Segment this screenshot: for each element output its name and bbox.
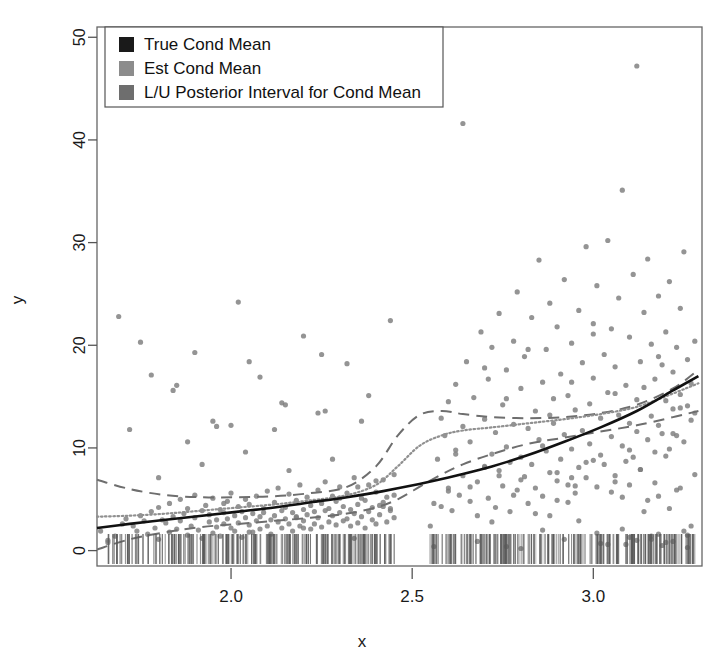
data-point bbox=[627, 482, 632, 487]
data-point bbox=[261, 510, 266, 515]
data-point bbox=[540, 494, 545, 499]
data-point bbox=[685, 403, 690, 408]
data-point bbox=[138, 340, 143, 345]
data-point bbox=[319, 524, 324, 529]
y-axis-label: y bbox=[8, 296, 28, 305]
data-point bbox=[656, 354, 661, 359]
data-point bbox=[558, 371, 563, 376]
data-point bbox=[555, 478, 560, 483]
data-point bbox=[584, 244, 589, 249]
data-point bbox=[620, 526, 625, 531]
data-point bbox=[526, 501, 531, 506]
data-point bbox=[573, 407, 578, 412]
data-point bbox=[355, 484, 360, 489]
data-point bbox=[576, 308, 581, 313]
data-point bbox=[439, 504, 444, 509]
data-point bbox=[569, 475, 574, 480]
data-point bbox=[584, 460, 589, 465]
data-point bbox=[565, 500, 570, 505]
data-point bbox=[497, 473, 502, 478]
data-point bbox=[605, 390, 610, 395]
data-point bbox=[678, 485, 683, 490]
data-point bbox=[475, 479, 480, 484]
data-point bbox=[645, 437, 650, 442]
data-point bbox=[667, 279, 672, 284]
data-point bbox=[591, 331, 596, 336]
data-point bbox=[123, 516, 128, 521]
data-point bbox=[558, 457, 563, 462]
data-point bbox=[352, 475, 357, 480]
data-point bbox=[149, 372, 154, 377]
x-tick-label: 2.0 bbox=[219, 587, 243, 606]
data-point bbox=[681, 439, 686, 444]
data-point bbox=[214, 524, 219, 529]
data-point bbox=[326, 506, 331, 511]
data-point bbox=[620, 443, 625, 448]
data-point bbox=[489, 345, 494, 350]
rug-plot-group bbox=[109, 534, 695, 564]
data-point bbox=[667, 446, 672, 451]
data-point bbox=[609, 326, 614, 331]
data-point bbox=[334, 522, 339, 527]
data-point bbox=[678, 306, 683, 311]
data-point bbox=[681, 529, 686, 534]
data-point bbox=[565, 482, 570, 487]
data-point bbox=[518, 386, 523, 391]
data-point bbox=[323, 479, 328, 484]
data-point bbox=[515, 487, 520, 492]
data-point bbox=[475, 513, 480, 518]
data-point bbox=[152, 525, 157, 530]
data-point bbox=[591, 458, 596, 463]
data-point bbox=[656, 494, 661, 499]
data-point bbox=[533, 408, 538, 413]
data-point bbox=[192, 350, 197, 355]
data-point bbox=[392, 515, 397, 520]
data-point bbox=[319, 352, 324, 357]
data-point bbox=[247, 359, 252, 364]
data-point bbox=[616, 413, 621, 418]
data-point bbox=[515, 289, 520, 294]
y-tick-label: 20 bbox=[72, 336, 89, 354]
data-point bbox=[286, 521, 291, 526]
data-point bbox=[312, 509, 317, 514]
data-point bbox=[645, 498, 650, 503]
data-point bbox=[460, 121, 465, 126]
data-point bbox=[384, 519, 389, 524]
data-point bbox=[587, 441, 592, 446]
data-point bbox=[598, 453, 603, 458]
data-point bbox=[344, 361, 349, 366]
data-point bbox=[670, 406, 675, 411]
data-point bbox=[623, 383, 628, 388]
data-point bbox=[504, 367, 509, 372]
data-point bbox=[196, 528, 201, 533]
data-point bbox=[555, 498, 560, 503]
data-point bbox=[565, 393, 570, 398]
data-point bbox=[297, 482, 302, 487]
data-point bbox=[497, 311, 502, 316]
data-point bbox=[482, 365, 487, 370]
series-line-true-cond-mean bbox=[97, 376, 698, 528]
data-point bbox=[652, 480, 657, 485]
data-point bbox=[670, 369, 675, 374]
data-point bbox=[580, 428, 585, 433]
data-point bbox=[326, 519, 331, 524]
data-point bbox=[149, 509, 154, 514]
data-point bbox=[511, 339, 516, 344]
data-point bbox=[457, 493, 462, 498]
y-tick-label: 0 bbox=[72, 546, 89, 555]
data-point bbox=[641, 385, 646, 390]
data-point bbox=[551, 396, 556, 401]
data-point bbox=[623, 459, 628, 464]
data-point bbox=[692, 339, 697, 344]
data-point bbox=[428, 523, 433, 528]
data-point bbox=[279, 525, 284, 530]
data-point bbox=[468, 499, 473, 504]
data-point bbox=[613, 364, 618, 369]
data-point bbox=[305, 512, 310, 517]
data-point bbox=[330, 457, 335, 462]
data-point bbox=[301, 525, 306, 530]
data-point bbox=[536, 258, 541, 263]
data-point bbox=[257, 375, 262, 380]
data-point bbox=[355, 502, 360, 507]
data-point bbox=[547, 513, 552, 518]
